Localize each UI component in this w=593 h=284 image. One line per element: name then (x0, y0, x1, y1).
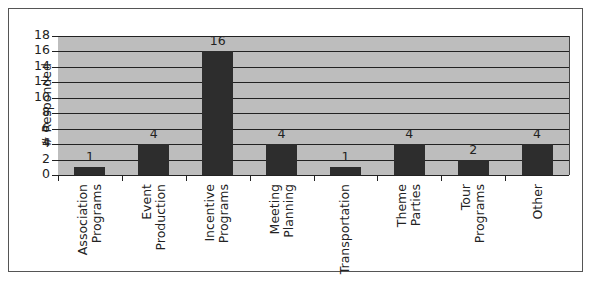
x-tick-mark (122, 175, 123, 181)
y-tick-mark (52, 113, 58, 114)
y-tick-label: 2 (12, 153, 50, 165)
gridline (58, 129, 569, 130)
x-tick-mark (505, 175, 506, 181)
gridline (58, 144, 569, 145)
y-tick-mark (52, 51, 58, 52)
gridline (58, 82, 569, 83)
y-tick-label: 12 (12, 75, 50, 87)
data-label: 4 (394, 126, 424, 141)
gridline (58, 36, 569, 37)
plot-area (58, 36, 570, 175)
y-tick-label: 0 (12, 168, 50, 180)
bar (74, 167, 105, 175)
y-tick-mark (52, 144, 58, 145)
y-tick-mark (52, 67, 58, 68)
x-tick-mark (377, 175, 378, 181)
x-tick-label-text: Transportation (338, 184, 352, 274)
bar (394, 144, 425, 175)
data-label: 4 (522, 126, 552, 141)
data-label: 4 (267, 126, 297, 141)
bar (266, 144, 297, 175)
x-tick-mark (314, 175, 315, 181)
y-tick-label: 8 (12, 106, 50, 118)
x-tick-label: Other (497, 184, 577, 244)
y-tick-mark (52, 36, 58, 37)
y-tick-mark (52, 98, 58, 99)
bar (458, 160, 489, 175)
bar (138, 144, 169, 175)
y-tick-label: 14 (12, 60, 50, 72)
y-tick-mark (52, 160, 58, 161)
bar (522, 144, 553, 175)
gridline (58, 98, 569, 99)
x-axis (52, 175, 569, 176)
data-label: 4 (139, 126, 169, 141)
gridline (58, 67, 569, 68)
data-label: 1 (330, 149, 360, 164)
y-tick-label: 4 (12, 137, 50, 149)
bar (330, 167, 361, 175)
x-tick-mark (186, 175, 187, 181)
y-tick-label: 6 (12, 122, 50, 134)
x-tick-label-text: Meeting Planning (268, 184, 296, 238)
gridline (58, 113, 569, 114)
x-tick-label-text: Incentive Programs (204, 184, 232, 243)
data-label: 16 (203, 33, 233, 48)
data-label: 2 (458, 142, 488, 157)
x-tick-label-text: Theme Parties (395, 184, 423, 227)
y-tick-mark (52, 129, 58, 130)
y-tick-mark (52, 82, 58, 83)
bar (202, 51, 233, 175)
x-tick-mark (250, 175, 251, 181)
x-tick-label-text: Association Programs (76, 184, 104, 255)
x-tick-mark (58, 175, 59, 181)
x-tick-label-text: Event Production (140, 184, 168, 251)
x-tick-label-text: Tour Programs (459, 184, 487, 243)
y-tick-label: 10 (12, 91, 50, 103)
x-tick-mark (441, 175, 442, 181)
y-tick-label: 16 (12, 44, 50, 56)
gridline (58, 160, 569, 161)
data-label: 1 (75, 149, 105, 164)
x-tick-label-text: Other (530, 184, 544, 220)
y-tick-label: 18 (12, 29, 50, 41)
gridline (58, 51, 569, 52)
